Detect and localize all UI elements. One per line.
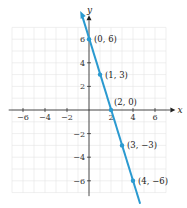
y-tick-label: 4 — [80, 59, 85, 68]
point-label: (3, −3) — [127, 140, 157, 150]
x-tick-label: 6 — [152, 113, 157, 122]
x-axis-label: x — [177, 105, 182, 115]
y-axis-label: y — [86, 5, 93, 15]
point-label: (4, −6) — [138, 176, 168, 186]
x-tick-label: −6 — [17, 113, 29, 122]
y-tick-label: −2 — [73, 130, 85, 139]
x-tick-label: −4 — [39, 113, 51, 122]
point-label: (0, 6) — [94, 34, 117, 44]
y-tick-label: −6 — [73, 177, 85, 186]
tick-labels: −6−4−2246−6−4−2246 — [17, 35, 157, 186]
y-tick-label: −4 — [73, 153, 85, 162]
x-tick-label: 4 — [130, 113, 135, 122]
coordinate-plane: xy −6−4−2246−6−4−2246 (0, 6)(1, 3)(2, 0)… — [0, 0, 187, 208]
point-label: (2, 0) — [114, 97, 137, 107]
x-tick-label: −2 — [61, 113, 73, 122]
y-tick-label: 2 — [80, 82, 85, 91]
point-label: (1, 3) — [105, 70, 128, 80]
y-tick-label: 6 — [80, 35, 85, 44]
